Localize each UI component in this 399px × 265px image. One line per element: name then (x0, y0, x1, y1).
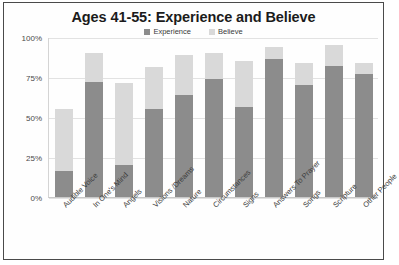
y-tick-label: 25% (26, 154, 42, 163)
bar-segment-experience[interactable] (325, 66, 344, 197)
legend-label-experience: Experience (153, 27, 191, 36)
legend-entry-experience: Experience (144, 27, 191, 36)
bar-group[interactable] (325, 38, 344, 197)
bar-segment-experience[interactable] (355, 74, 374, 197)
y-tick-label: 75% (26, 74, 42, 83)
y-tick-label: 0% (30, 194, 42, 203)
legend-swatch-believe (209, 29, 215, 35)
y-tick-label: 100% (22, 34, 42, 43)
bar-segment-experience[interactable] (205, 79, 224, 197)
bar-group[interactable] (55, 38, 74, 197)
x-axis: Audible VoiceIn One's MindAngelsVisions … (48, 200, 378, 262)
bar-segment-experience[interactable] (265, 59, 284, 197)
legend-swatch-experience (144, 29, 150, 35)
bar-group[interactable] (205, 38, 224, 197)
legend-entry-believe: Believe (209, 27, 243, 36)
chart-frame: Ages 41-55: Experience and Believe Exper… (3, 2, 384, 260)
bar-group[interactable] (355, 38, 374, 197)
chart-legend: Experience Believe (4, 27, 383, 36)
bar-group[interactable] (145, 38, 164, 197)
y-axis: 0%25%50%75%100% (4, 38, 42, 198)
y-tick-label: 50% (26, 114, 42, 123)
bar-group[interactable] (265, 38, 284, 197)
bar-segment-experience[interactable] (145, 109, 164, 197)
chart-title: Ages 41-55: Experience and Believe (4, 9, 383, 25)
legend-label-believe: Believe (218, 27, 243, 36)
plot-area-wrapper (48, 38, 378, 198)
plot-area (48, 38, 378, 198)
